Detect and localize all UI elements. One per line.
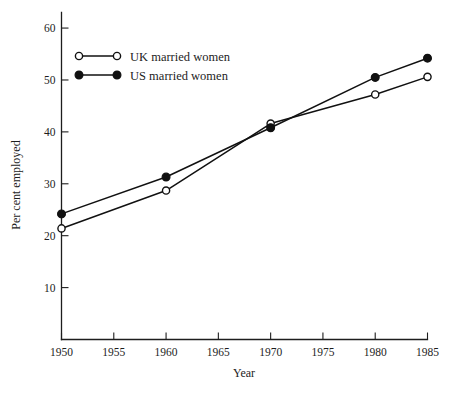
legend-sample-marker [113, 52, 120, 59]
data-point-marker [371, 73, 379, 81]
y-tick-label: 60 [44, 22, 56, 34]
axes [62, 13, 428, 340]
y-tick-label: 40 [44, 126, 56, 138]
data-point-marker [267, 124, 275, 132]
legend-sample-marker [75, 52, 82, 59]
y-tick-label: 50 [44, 74, 56, 86]
x-tick-label: 1950 [50, 346, 73, 358]
series-line-us [62, 58, 428, 214]
data-point-marker [424, 54, 432, 62]
data-point-marker [58, 210, 66, 218]
legend-label: US married women [130, 69, 229, 83]
x-tick-label: 1980 [364, 346, 387, 358]
chart-legend: UK married womenUS married women [75, 50, 231, 83]
x-tick-label: 1970 [259, 346, 282, 358]
x-axis-ticks: 19501955196019651970197519801985 [50, 333, 439, 358]
x-axis-title: Year [233, 366, 255, 380]
data-point-marker [372, 91, 379, 98]
data-series-group [58, 54, 432, 232]
data-point-marker [162, 187, 169, 194]
y-axis-title: Per cent employed [9, 140, 23, 229]
legend-label: UK married women [130, 50, 231, 64]
x-tick-label: 1985 [416, 346, 439, 358]
x-tick-label: 1965 [207, 346, 230, 358]
x-tick-label: 1975 [311, 346, 334, 358]
legend-sample-marker [75, 71, 83, 79]
x-tick-label: 1960 [155, 346, 178, 358]
y-axis-ticks: 102030405060 [44, 22, 69, 294]
y-tick-label: 30 [44, 178, 56, 190]
line-chart: 102030405060 195019551960196519701975198… [0, 0, 449, 396]
x-tick-label: 1955 [102, 346, 125, 358]
data-point-marker [58, 225, 65, 232]
data-point-marker [162, 173, 170, 181]
chart-figure: 102030405060 195019551960196519701975198… [0, 0, 449, 396]
y-tick-label: 10 [44, 282, 56, 294]
series-line-uk [62, 77, 428, 229]
y-tick-label: 20 [44, 230, 56, 242]
data-point-marker [424, 73, 431, 80]
legend-sample-marker [113, 71, 121, 79]
